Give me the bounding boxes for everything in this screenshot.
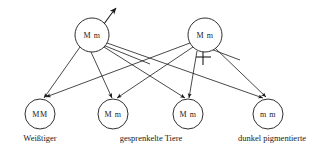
caption-dunkel-pigmentierte: dunkel pigmentierte — [238, 133, 306, 143]
offspring-4-genotype-label: m m — [260, 110, 276, 119]
pedigree-diagram: M m M m MM M m M m m m Weißtiger gespren… — [0, 0, 331, 148]
edge-father-to-offspring-2 — [91, 52, 112, 98]
edge-father-to-offspring-3 — [104, 47, 185, 98]
caption-gesprenkelte-tiere: gesprenkelte Tiere — [120, 133, 183, 143]
offspring-node-4[interactable]: m m — [253, 99, 283, 129]
offspring-node-1[interactable]: MM — [25, 99, 55, 129]
pedigree-canvas: M m M m MM M m M m m m Weißtiger gespren… — [0, 0, 331, 148]
edge-group-father — [44, 43, 263, 98]
caption-group: Weißtiger gesprenkelte Tiere dunkel pigm… — [23, 133, 306, 143]
edge-return-father — [98, 43, 150, 64]
father-genotype-label: M m — [83, 31, 100, 40]
edge-returns — [98, 43, 240, 64]
edge-father-to-offspring-1 — [44, 47, 80, 98]
mother-genotype-label: M m — [196, 31, 213, 40]
parent-node-father[interactable]: M m — [75, 18, 109, 52]
edge-mother-to-offspring-2 — [117, 47, 193, 98]
parent-node-mother[interactable]: M m — [188, 18, 222, 52]
offspring-node-2[interactable]: M m — [98, 99, 128, 129]
offspring-node-3[interactable]: M m — [173, 99, 203, 129]
caption-weisstiger: Weißtiger — [23, 133, 56, 143]
offspring-3-genotype-label: M m — [179, 110, 196, 119]
edge-father-to-offspring-4 — [107, 43, 263, 98]
edge-group-mother — [46, 43, 266, 98]
male-symbol-icon — [104, 8, 116, 24]
offspring-1-genotype-label: MM — [32, 110, 47, 119]
offspring-2-genotype-label: M m — [104, 110, 121, 119]
